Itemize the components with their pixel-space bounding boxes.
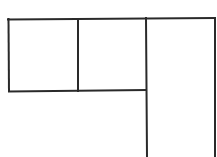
grid-diagram xyxy=(0,0,217,157)
column-left-edge xyxy=(146,18,147,157)
left-edge xyxy=(9,19,10,91)
top-edge xyxy=(8,18,215,20)
